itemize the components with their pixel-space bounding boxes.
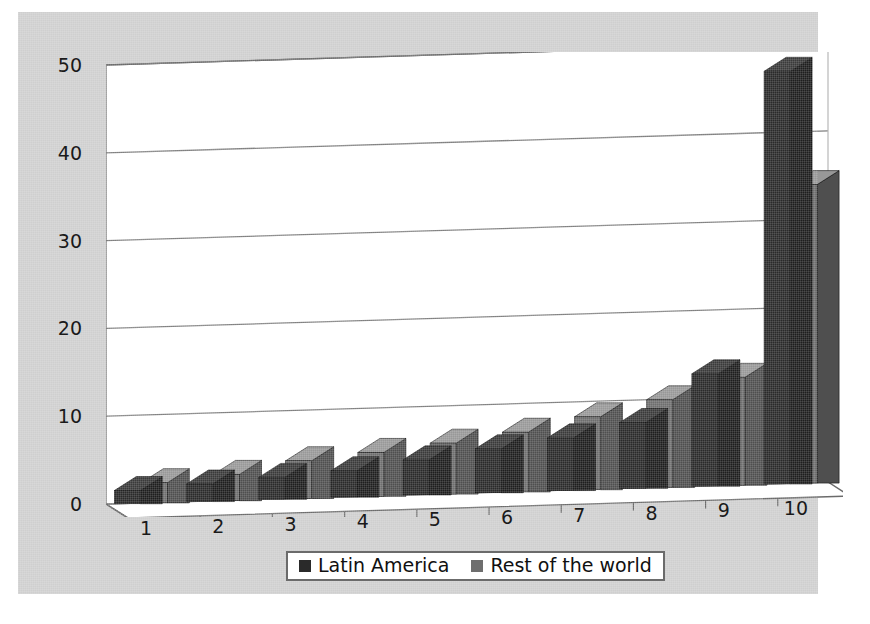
x-tick-label: 3 [284,513,296,535]
legend-item-rest-of-the-world: Rest of the world [471,556,651,575]
legend-label: Rest of the world [490,556,651,575]
legend-label: Latin America [318,556,449,575]
legend-swatch-icon [299,560,311,572]
x-tick-label: 10 [784,497,808,519]
x-tick-label: 1 [140,517,152,539]
x-tick-label: 5 [429,508,441,530]
legend-swatch-icon [471,560,483,572]
x-tick-label: 8 [645,502,657,524]
x-tick-label: 6 [501,506,513,528]
x-tick-label: 9 [718,499,730,521]
x-axis: 12345678910 [0,0,870,624]
legend-item-latin-america: Latin America [299,556,449,575]
x-tick-label: 2 [212,515,224,537]
x-tick-label: 7 [573,504,585,526]
chart-legend: Latin America Rest of the world [286,551,665,581]
x-tick-label: 4 [357,510,369,532]
